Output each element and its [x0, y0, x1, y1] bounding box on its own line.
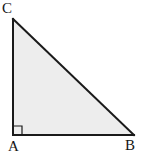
vertex-label-c: C	[2, 1, 12, 16]
triangle-diagram-canvas	[0, 0, 145, 159]
triangle-figure: C A B	[0, 0, 145, 159]
vertex-label-a: A	[8, 139, 19, 154]
vertex-label-b: B	[125, 138, 135, 153]
